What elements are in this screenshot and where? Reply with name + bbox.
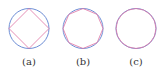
panel-b-label: (b) [63, 56, 103, 68]
circle [9, 9, 49, 49]
panel-a [9, 9, 49, 49]
panel-c-label: (c) [116, 56, 156, 68]
panel-c [116, 9, 156, 49]
panel-a-label: (a) [9, 56, 49, 68]
inscribed-polygon-8 [63, 9, 103, 49]
panel-b [63, 9, 103, 49]
inscribed-polygon-16 [116, 9, 156, 49]
